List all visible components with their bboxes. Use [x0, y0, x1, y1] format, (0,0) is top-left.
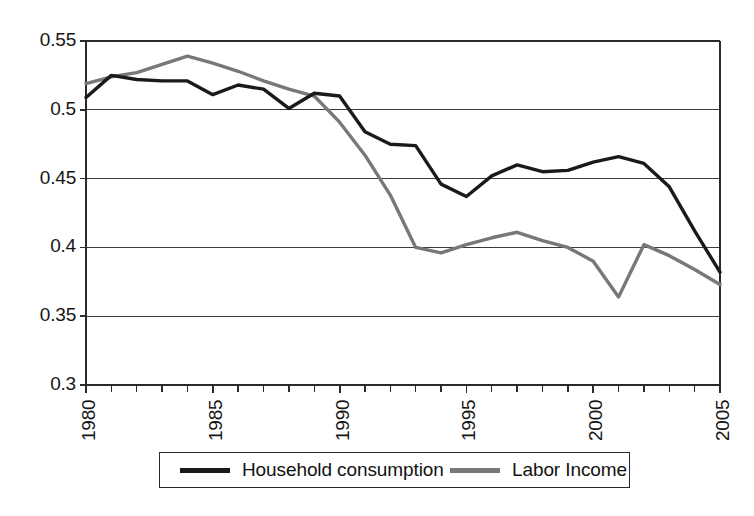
x-tick-label: 1995	[458, 400, 480, 441]
x-tick-label: 2000	[585, 400, 607, 441]
x-tick-label: 1990	[332, 400, 354, 441]
chart-figure: 0.550.50.450.40.350.3 198019851990199520…	[0, 0, 754, 516]
legend-label-household-consumption: Household consumption	[242, 459, 444, 481]
chart-plot-area	[0, 0, 754, 516]
legend-swatch-household-consumption	[180, 468, 230, 473]
x-tick-label: 1980	[78, 400, 100, 441]
y-tick-label: 0.45	[40, 167, 76, 189]
data-series-layer	[86, 56, 720, 297]
y-tick-label: 0.3	[50, 373, 76, 395]
chart-legend: Household consumption Labor Income	[159, 452, 630, 488]
legend-entry-labor-income: Labor Income	[450, 453, 627, 487]
x-tick-label: 1985	[205, 400, 227, 441]
y-tick-label: 0.4	[50, 235, 76, 257]
legend-entry-household-consumption: Household consumption	[180, 453, 444, 487]
y-tick-label: 0.35	[40, 304, 76, 326]
y-tick-label: 0.5	[50, 98, 76, 120]
gridlines	[86, 41, 720, 385]
x-tick-label: 2005	[712, 400, 734, 441]
y-tick-label: 0.55	[40, 29, 76, 51]
plot-frame	[86, 41, 720, 385]
legend-label-labor-income: Labor Income	[512, 459, 627, 481]
legend-swatch-labor-income	[450, 468, 500, 473]
